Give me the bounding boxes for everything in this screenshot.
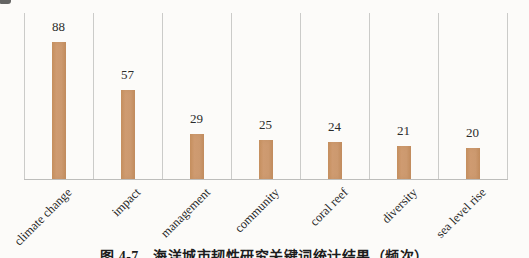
x-axis-line (24, 179, 508, 180)
bar-management (190, 134, 204, 179)
value-label: 57 (111, 68, 145, 82)
figure-caption: 图 4-7 海洋城市韧性研究关键词统计结果（频次） (0, 245, 529, 258)
category-label: management (158, 186, 212, 240)
value-label: 88 (42, 20, 76, 34)
category-label: sea level rise (434, 186, 489, 241)
value-label: 25 (249, 118, 283, 132)
value-label: 20 (456, 126, 490, 140)
category-label: diversity (380, 186, 420, 226)
value-label: 29 (180, 112, 214, 126)
gridline (93, 13, 94, 179)
gridline (300, 13, 301, 179)
bar-diversity (397, 146, 411, 179)
gridline (438, 13, 439, 179)
gridline (507, 13, 508, 179)
category-label: climate change (12, 186, 74, 248)
value-label: 24 (318, 120, 352, 134)
category-label: impact (110, 186, 143, 219)
bar-chart: 88climate change57impact29management25co… (0, 0, 529, 258)
bar-impact (121, 90, 135, 179)
bar-community (259, 140, 273, 179)
bar-climate-change (52, 42, 66, 179)
gridline (162, 13, 163, 179)
gridline (24, 13, 25, 179)
gridline (369, 13, 370, 179)
figure: 88climate change57impact29management25co… (0, 0, 529, 258)
bar-sea-level-rise (466, 148, 480, 179)
value-label: 21 (387, 124, 421, 138)
gridline (231, 13, 232, 179)
category-label: coral reef (308, 186, 351, 229)
bar-coral-reef (328, 142, 342, 179)
category-label: community (232, 186, 281, 235)
